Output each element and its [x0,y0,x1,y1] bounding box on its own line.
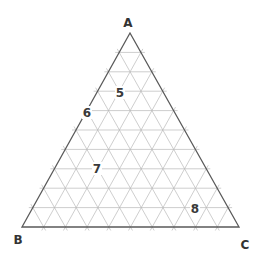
point-labels: 5678 [82,86,200,216]
grid-line [129,127,187,231]
grid-line [74,127,132,231]
vertex-label-a: A [123,16,133,30]
ternary-diagram: 5678 A B C [0,0,261,263]
grid-line [42,49,143,231]
grid-line [117,49,219,231]
point-label-6: 6 [83,106,91,120]
point-label-8: 8 [191,202,199,216]
vertex-label-b: B [13,233,22,247]
point-label-5: 5 [116,86,124,100]
grid-line [85,88,164,231]
point-label-7: 7 [93,162,101,176]
grid-line [172,165,208,230]
vertex-label-c: C [241,238,250,252]
grid-line [96,88,176,231]
triangular-grid [29,49,232,231]
grid-line [52,165,89,230]
